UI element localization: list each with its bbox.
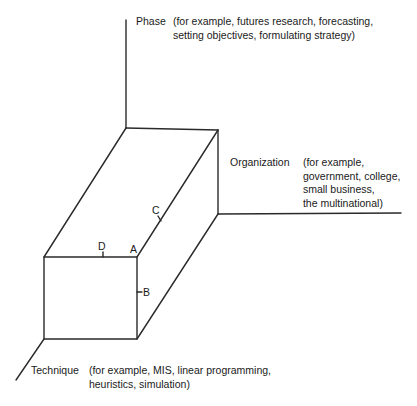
- cube-front-face: [44, 257, 137, 339]
- phase-examples-line-1: (for example, futures research, forecast…: [173, 15, 373, 29]
- point-label-b: B: [143, 287, 150, 298]
- cube-top-right-edge: [137, 130, 218, 257]
- organization-axis-examples: (for example, government, college, small…: [303, 156, 400, 210]
- point-label-c: C: [152, 205, 160, 216]
- cube-bottom-right-edge: [137, 214, 218, 339]
- cube-top-left-edge: [44, 128, 126, 257]
- technique-examples-line-2: heuristics, simulation): [89, 378, 271, 392]
- phase-axis-label: Phase (for example, futures research, fo…: [136, 15, 373, 42]
- technique-examples-line-1: (for example, MIS, linear programming,: [89, 364, 271, 378]
- point-c-tick: [158, 216, 161, 221]
- organization-axis-line: [218, 213, 401, 214]
- cube-top-back-edge: [126, 128, 218, 130]
- phase-axis-examples: (for example, futures research, forecast…: [173, 15, 373, 42]
- organization-examples-line-1: (for example,: [303, 156, 400, 170]
- organization-examples-line-4: the multinational): [303, 197, 400, 211]
- technique-axis-name: Technique: [31, 364, 86, 378]
- technique-axis-label: Technique (for example, MIS, linear prog…: [31, 364, 271, 391]
- point-label-a: A: [130, 244, 137, 255]
- technique-axis-examples: (for example, MIS, linear programming, h…: [89, 364, 271, 391]
- point-label-d: D: [98, 241, 106, 252]
- organization-examples-line-2: government, college,: [303, 170, 400, 184]
- phase-axis-name: Phase: [136, 15, 170, 29]
- organization-axis-label: Organization (for example, government, c…: [230, 156, 400, 210]
- phase-examples-line-2: setting objectives, formulating strategy…: [173, 29, 373, 43]
- organization-examples-line-3: small business,: [303, 183, 400, 197]
- organization-axis-name: Organization: [230, 156, 297, 170]
